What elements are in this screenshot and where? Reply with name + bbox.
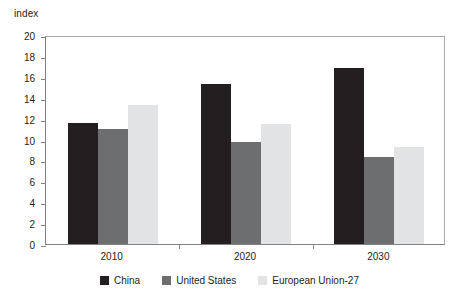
y-axis-unit-label: index bbox=[14, 8, 38, 19]
bar-eu-2030[interactable] bbox=[394, 147, 424, 244]
chart-page: index 20181614121086420 201020202030 Chi… bbox=[0, 0, 459, 300]
legend-item-eu[interactable]: European Union-27 bbox=[258, 275, 359, 286]
y-axis-tick-label: 10 bbox=[24, 135, 35, 148]
legend-swatch-eu bbox=[258, 276, 267, 285]
bar-group bbox=[313, 37, 446, 244]
bar-eu-2020[interactable] bbox=[261, 124, 291, 244]
legend-item-china[interactable]: China bbox=[100, 275, 140, 286]
y-axis-tick-label: 0 bbox=[29, 239, 35, 252]
y-axis-tick-label: 6 bbox=[29, 176, 35, 189]
x-axis-label-2010: 2010 bbox=[72, 251, 152, 262]
legend-swatch-us bbox=[162, 276, 171, 285]
bar-group bbox=[46, 37, 179, 244]
bar-china-2030[interactable] bbox=[334, 68, 364, 244]
y-axis-tick-label: 8 bbox=[29, 155, 35, 168]
y-axis-tick-mark bbox=[41, 246, 46, 247]
y-axis-tick-label: 4 bbox=[29, 197, 35, 210]
y-axis-tick-label: 20 bbox=[24, 30, 35, 43]
x-axis-label-2030: 2030 bbox=[338, 251, 418, 262]
y-axis-tick-label: 18 bbox=[24, 51, 35, 64]
bar-group bbox=[179, 37, 312, 244]
y-axis-tick-label: 12 bbox=[24, 114, 35, 127]
x-axis-separator bbox=[313, 244, 314, 249]
bar-us-2030[interactable] bbox=[364, 157, 394, 244]
plot-area: 20181614121086420 bbox=[45, 36, 445, 245]
bar-eu-2010[interactable] bbox=[128, 105, 158, 244]
legend-label-us: United States bbox=[176, 275, 236, 286]
bar-china-2020[interactable] bbox=[201, 84, 231, 244]
x-axis-label-2020: 2020 bbox=[205, 251, 285, 262]
chart-legend: ChinaUnited StatesEuropean Union-27 bbox=[0, 275, 459, 286]
bar-us-2020[interactable] bbox=[231, 142, 261, 244]
x-axis-separator bbox=[179, 244, 180, 249]
y-axis-tick-label: 16 bbox=[24, 72, 35, 85]
legend-label-eu: European Union-27 bbox=[272, 275, 359, 286]
bar-us-2010[interactable] bbox=[98, 129, 128, 244]
legend-label-china: China bbox=[114, 275, 140, 286]
legend-item-us[interactable]: United States bbox=[162, 275, 236, 286]
bar-group-inner bbox=[179, 37, 312, 244]
y-axis-tick-label: 2 bbox=[29, 218, 35, 231]
bar-group-inner bbox=[313, 37, 446, 244]
bar-china-2010[interactable] bbox=[68, 123, 98, 244]
bar-group-inner bbox=[46, 37, 179, 244]
legend-swatch-china bbox=[100, 276, 109, 285]
bars-layer bbox=[46, 37, 444, 244]
y-axis-tick-label: 14 bbox=[24, 93, 35, 106]
